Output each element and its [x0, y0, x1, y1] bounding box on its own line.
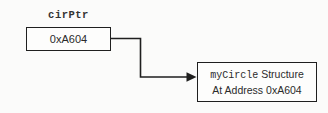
pointer-diagram: cirPtr 0xA604 myCircle Structure At Addr…: [0, 0, 328, 113]
struct-address-line: At Address 0xA604: [212, 83, 301, 98]
struct-name: myCircle: [210, 70, 258, 81]
pointer-arrow-line: [111, 39, 188, 78]
pointer-arrowhead: [187, 72, 197, 81]
struct-box: myCircle Structure At Address 0xA604: [197, 62, 317, 102]
struct-title-line: myCircle Structure: [210, 67, 304, 84]
struct-title-suffix: Structure: [258, 68, 304, 80]
